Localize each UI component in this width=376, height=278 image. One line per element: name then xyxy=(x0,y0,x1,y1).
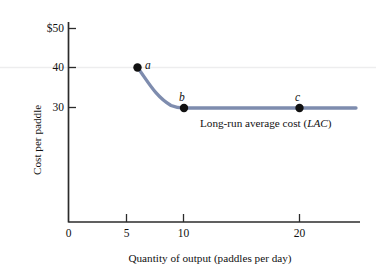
x-tick-label-0: 0 xyxy=(58,228,79,240)
data-point-c xyxy=(295,104,303,112)
lac-label-suffix: ) xyxy=(328,117,332,129)
y-tick-label-40: 40 xyxy=(34,62,64,74)
lac-cost-curve-chart: $50 40 30 0 5 10 20 a b c Long-run avera… xyxy=(0,0,376,278)
x-axis-title: Quantity of output (paddles per day) xyxy=(110,253,310,264)
x-tick-label-20: 20 xyxy=(289,228,310,240)
lac-curve xyxy=(138,68,357,109)
x-tick-label-5: 5 xyxy=(116,228,137,240)
x-tick-label-10: 10 xyxy=(173,228,194,240)
data-point-a xyxy=(133,63,141,71)
lac-curve-label: Long-run average cost (LAC) xyxy=(200,118,331,129)
lac-label-abbrev: LAC xyxy=(307,117,328,129)
point-label-b: b xyxy=(179,92,185,104)
y-tick-label-50: $50 xyxy=(34,23,64,35)
y-axis-title: Cost per paddle xyxy=(32,105,43,175)
lac-label-prefix: Long-run average cost ( xyxy=(200,117,307,129)
data-point-b xyxy=(180,104,188,112)
point-label-c: c xyxy=(295,92,300,104)
point-label-a: a xyxy=(145,60,151,72)
